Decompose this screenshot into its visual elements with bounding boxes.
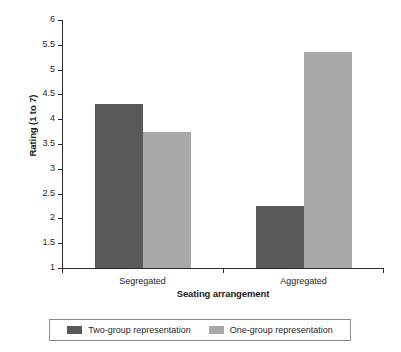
x-axis-tick-mark bbox=[223, 269, 224, 273]
legend-item-label: One-group representation bbox=[230, 325, 333, 335]
bar bbox=[143, 132, 191, 268]
x-axis-title: Seating arrangement bbox=[62, 288, 384, 299]
chart-legend: Two-group representationOne-group repres… bbox=[49, 319, 351, 341]
x-axis-category-label: Aggregated bbox=[244, 276, 364, 286]
legend-item: Two-group representation bbox=[67, 325, 191, 335]
y-axis-title: Rating (1 to 7) bbox=[27, 46, 38, 206]
bar bbox=[95, 104, 143, 268]
x-axis-tick-mark bbox=[62, 269, 63, 273]
y-axis-tick-mark bbox=[58, 243, 62, 244]
y-axis-tick-label: 3 bbox=[50, 163, 55, 173]
plot-area: 65.554.543.532.521.51 SegregatedAggregat… bbox=[62, 20, 384, 268]
y-axis-tick-mark bbox=[58, 119, 62, 120]
y-axis-tick-label: 1.5 bbox=[42, 237, 55, 247]
y-axis-tick-mark bbox=[58, 20, 62, 21]
y-axis-tick-label: 5.5 bbox=[42, 39, 55, 49]
bar-chart-figure: Rating (1 to 7) 65.554.543.532.521.51 Se… bbox=[0, 0, 401, 352]
y-axis-line bbox=[62, 20, 63, 269]
legend-color-swatch bbox=[209, 326, 224, 334]
y-axis-tick-mark bbox=[58, 144, 62, 145]
bar bbox=[304, 52, 352, 268]
y-axis-tick-label: 3.5 bbox=[42, 138, 55, 148]
legend-item-label: Two-group representation bbox=[88, 325, 191, 335]
y-axis-tick-mark bbox=[58, 70, 62, 71]
bar bbox=[256, 206, 304, 268]
x-axis-tick-mark bbox=[383, 269, 384, 273]
y-axis-tick-mark bbox=[58, 45, 62, 46]
y-axis-tick-mark bbox=[58, 94, 62, 95]
y-axis-tick-label: 1 bbox=[50, 262, 55, 272]
y-axis-tick-label: 2.5 bbox=[42, 188, 55, 198]
y-axis-tick-label: 4 bbox=[50, 113, 55, 123]
y-axis-tick-mark bbox=[58, 169, 62, 170]
legend-item: One-group representation bbox=[209, 325, 333, 335]
y-axis-tick-mark bbox=[58, 218, 62, 219]
x-axis-category-label: Segregated bbox=[83, 276, 203, 286]
y-axis-tick-label: 2 bbox=[50, 212, 55, 222]
y-axis-tick-mark bbox=[58, 194, 62, 195]
y-axis-tick-label: 6 bbox=[50, 14, 55, 24]
y-axis-tick-label: 4.5 bbox=[42, 88, 55, 98]
legend-color-swatch bbox=[67, 326, 82, 334]
y-axis-tick-label: 5 bbox=[50, 64, 55, 74]
